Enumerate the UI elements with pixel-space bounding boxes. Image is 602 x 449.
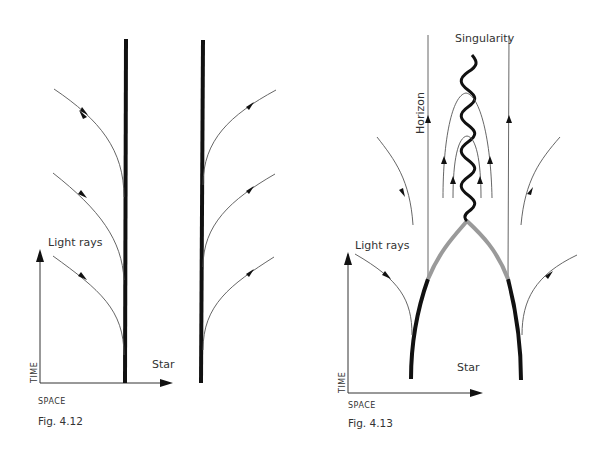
light-rays-outer (355, 137, 577, 335)
space-axis-arrow-icon (160, 379, 173, 387)
space-axis-label: SPACE (38, 397, 66, 406)
star-surface-left (125, 39, 126, 383)
star-surface-right (201, 40, 203, 383)
ray-arrows-right (246, 102, 254, 277)
figure-caption: Fig. 4.13 (348, 417, 393, 429)
light-rays-label: Light rays (355, 239, 410, 252)
figure-4-13: Singularity Horizon Light rays Star TIME… (338, 32, 577, 429)
outer-ray-arrows (382, 187, 553, 279)
light-rays-right (203, 90, 276, 350)
space-axis-label: SPACE (348, 401, 376, 410)
collapse-surface-right (467, 221, 508, 279)
star-surface-right (508, 279, 521, 380)
figure-caption: Fig. 4.12 (38, 415, 83, 427)
horizon-arrow-icon (506, 115, 512, 123)
diagram-canvas: Light rays Star TIME SPACE Fig. 4.12 (0, 0, 602, 449)
time-axis-arrow-icon (344, 252, 352, 265)
space-axis-arrow-icon (470, 389, 483, 397)
time-axis-label: TIME (338, 372, 347, 394)
singularity-label: Singularity (455, 32, 515, 45)
star-label: Star (457, 361, 480, 374)
horizon-label: Horizon (414, 92, 427, 134)
figure-4-12: Light rays Star TIME SPACE Fig. 4.12 (30, 39, 276, 427)
time-axis-arrow-icon (36, 249, 44, 262)
star-label: Star (152, 358, 175, 371)
collapse-surface-left (428, 221, 467, 279)
ray-arrows-left (78, 107, 88, 280)
light-rays-label: Light rays (48, 236, 103, 249)
horizon-line-right (508, 35, 509, 279)
star-surface-left (411, 279, 428, 379)
time-axis-label: TIME (30, 362, 39, 384)
light-rays-left (53, 89, 124, 355)
